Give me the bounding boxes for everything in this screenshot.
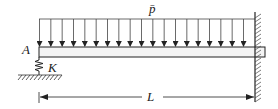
beam [39, 47, 265, 57]
load-arrows [40, 19, 244, 46]
point-a-label: A [21, 42, 30, 57]
beam-diagram: p̄ A K L [0, 0, 278, 109]
load-label: p̄ [148, 1, 156, 16]
length-label: L [146, 89, 154, 104]
spring-support [35, 57, 43, 75]
spring-label: K [47, 60, 58, 75]
ground-support [18, 75, 62, 80]
distributed-load [39, 19, 255, 46]
